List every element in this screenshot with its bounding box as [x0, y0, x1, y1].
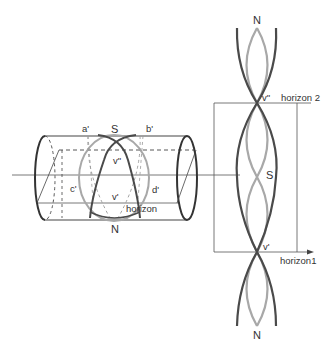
- left-end-front: [35, 136, 45, 220]
- label-horizon-2: horizon 2: [281, 92, 320, 103]
- label-south-unrolled: S: [266, 169, 273, 181]
- label-v-prime-unrolled: v': [263, 241, 270, 252]
- label-d-prime: d': [152, 184, 159, 195]
- label-horizon-1: horizon1: [280, 255, 316, 266]
- label-north-cylinder: N: [111, 223, 119, 235]
- label-a-prime: a': [82, 123, 89, 134]
- label-v-double-prime-cylinder: v": [113, 155, 121, 166]
- label-south-cylinder: S: [111, 123, 118, 135]
- right-end-diagonal: [177, 150, 196, 203]
- right-end-ellipse: [177, 136, 197, 220]
- label-b-prime: b': [146, 123, 153, 134]
- label-c-prime: c': [70, 183, 77, 194]
- horizon-1-arrow-icon: [307, 250, 314, 255]
- label-v-prime-cylinder: v': [112, 191, 119, 202]
- label-horizon-cylinder: horizon: [126, 203, 157, 214]
- dashed-b-vertical: [138, 136, 143, 200]
- light-helix: [247, 28, 268, 326]
- cylinder: [35, 135, 197, 221]
- unrolled-projection: [214, 28, 314, 326]
- cylinder-projection-diagram: a' S b' v" c' d' v' horizon N N v" horiz…: [0, 0, 334, 346]
- label-north-bottom: N: [253, 329, 261, 341]
- left-end-diagonal: [37, 150, 59, 203]
- label-north-top: N: [253, 14, 261, 26]
- left-end-back: [45, 136, 55, 220]
- label-v-double-prime-unrolled: v": [262, 92, 270, 103]
